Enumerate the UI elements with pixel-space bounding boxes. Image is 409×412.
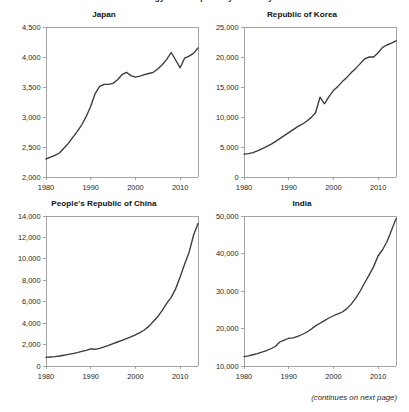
svg-text:1980: 1980: [236, 372, 252, 381]
chart-panel-republic-of-korea: Republic of Korea 05,00010,00015,00020,0…: [200, 10, 404, 206]
svg-text:10,000: 10,000: [216, 362, 239, 371]
svg-text:2000: 2000: [127, 372, 143, 381]
chart-title-peoples-republic-of-china: People's Republic of China: [2, 199, 206, 208]
chart-panel-india: India 10,00020,00030,00040,00050,0001980…: [200, 199, 404, 395]
svg-text:1990: 1990: [82, 183, 98, 192]
svg-text:8,000: 8,000: [22, 276, 41, 285]
chart-title-india: India: [200, 199, 404, 208]
svg-text:1980: 1980: [236, 183, 252, 192]
svg-text:1990: 1990: [280, 372, 296, 381]
svg-text:2,500: 2,500: [22, 143, 41, 152]
svg-text:1990: 1990: [280, 183, 296, 192]
svg-text:6,000: 6,000: [22, 297, 41, 306]
plot-area-peoples-republic-of-china: 02,0004,0006,0008,00010,00012,00014,0001…: [2, 210, 206, 390]
svg-text:30,000: 30,000: [216, 287, 239, 296]
svg-text:1990: 1990: [82, 372, 98, 381]
plot-area-republic-of-korea: 05,00010,00015,00020,00025,0001980199020…: [200, 21, 404, 201]
plot-area-india: 10,00020,00030,00040,00050,0001980199020…: [200, 210, 404, 390]
svg-text:2010: 2010: [370, 183, 386, 192]
svg-text:14,000: 14,000: [18, 212, 41, 221]
chart-panel-grid: Japan 2,0002,5003,0003,5004,0004,5001980…: [0, 0, 409, 412]
svg-text:2010: 2010: [172, 183, 188, 192]
svg-text:12,000: 12,000: [18, 233, 41, 242]
svg-text:1980: 1980: [38, 372, 54, 381]
chart-title-japan: Japan: [2, 10, 206, 19]
svg-text:25,000: 25,000: [216, 23, 239, 32]
svg-text:15,000: 15,000: [216, 83, 239, 92]
svg-text:4,000: 4,000: [22, 319, 41, 328]
chart-panel-peoples-republic-of-china: People's Republic of China 02,0004,0006,…: [2, 199, 206, 395]
svg-text:2000: 2000: [127, 183, 143, 192]
svg-text:3,000: 3,000: [22, 113, 41, 122]
svg-text:3,500: 3,500: [22, 83, 41, 92]
svg-text:20,000: 20,000: [216, 324, 239, 333]
svg-text:10,000: 10,000: [216, 113, 239, 122]
chart-title-republic-of-korea: Republic of Korea: [200, 10, 404, 19]
svg-text:1980: 1980: [38, 183, 54, 192]
plot-area-japan: 2,0002,5003,0003,5004,0004,5001980199020…: [2, 21, 206, 201]
svg-text:2010: 2010: [370, 372, 386, 381]
svg-text:50,000: 50,000: [216, 212, 239, 221]
svg-text:5,000: 5,000: [220, 143, 239, 152]
svg-text:0: 0: [234, 173, 238, 182]
svg-text:20,000: 20,000: [216, 53, 239, 62]
svg-text:4,000: 4,000: [22, 53, 41, 62]
svg-text:2010: 2010: [172, 372, 188, 381]
svg-text:2000: 2000: [325, 183, 341, 192]
svg-text:40,000: 40,000: [216, 249, 239, 258]
svg-text:4,500: 4,500: [22, 23, 41, 32]
chart-panel-japan: Japan 2,0002,5003,0003,5004,0004,5001980…: [2, 10, 206, 206]
svg-text:0: 0: [36, 362, 40, 371]
continues-on-next-page-note: (continues on next page): [311, 393, 397, 402]
svg-text:2,000: 2,000: [22, 340, 41, 349]
svg-text:10,000: 10,000: [18, 254, 41, 263]
svg-text:2000: 2000: [325, 372, 341, 381]
svg-text:2,000: 2,000: [22, 173, 41, 182]
